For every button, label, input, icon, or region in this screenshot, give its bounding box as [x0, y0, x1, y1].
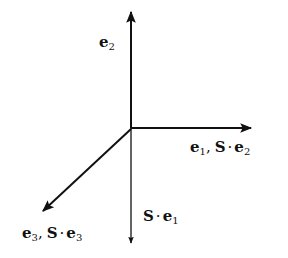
- label-e1-s-e2: e1,S·e2: [190, 140, 250, 157]
- label-e2: e2: [99, 35, 115, 52]
- label-se1-sub: 1: [172, 215, 178, 226]
- label-e3-s-e3: e3,S·e3: [22, 226, 82, 243]
- label-e1-sub: 1: [200, 146, 206, 157]
- label-e3-sub: 3: [32, 232, 38, 243]
- label-e1-dot: ·: [226, 138, 235, 156]
- label-e3-e3-sub: 3: [76, 232, 82, 243]
- label-e1-comma: ,: [206, 138, 211, 156]
- label-e3-base: e: [22, 224, 32, 242]
- label-e1-operator-s: S: [215, 138, 226, 156]
- label-e3-e3-base: e: [66, 224, 76, 242]
- label-e1-e2-sub: 2: [244, 146, 250, 157]
- label-se1-dot: ·: [154, 207, 163, 225]
- label-e2-base: e: [99, 33, 109, 51]
- label-s-e1: S·e1: [143, 209, 179, 226]
- label-e2-sub: 2: [109, 41, 115, 52]
- vector-e3-arrow: [43, 129, 131, 211]
- label-e3-comma: ,: [38, 224, 43, 242]
- label-e3-dot: ·: [58, 224, 67, 242]
- label-e3-operator-s: S: [47, 224, 58, 242]
- label-e1-base: e: [190, 138, 200, 156]
- origin-point: [130, 127, 132, 129]
- label-se1-base: e: [163, 207, 173, 225]
- label-se1-operator-s: S: [143, 207, 154, 225]
- label-e1-e2-base: e: [234, 138, 244, 156]
